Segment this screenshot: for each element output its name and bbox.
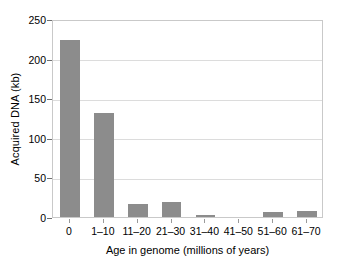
y-tick-mark <box>47 60 52 61</box>
x-tick-mark <box>171 219 172 223</box>
bar <box>94 113 114 217</box>
bar <box>297 211 317 217</box>
bars-group <box>53 21 322 217</box>
y-tick-label: 150 <box>24 94 46 104</box>
y-tick-mark <box>47 218 52 219</box>
x-tick-label: 11–20 <box>120 225 154 237</box>
bar <box>60 40 80 217</box>
x-tick-mark <box>103 219 104 223</box>
x-tick-label: 61–70 <box>289 225 323 237</box>
x-tick-label: 21–30 <box>154 225 188 237</box>
y-tick-mark <box>47 20 52 21</box>
x-tick-mark <box>272 219 273 223</box>
x-tick-label: 41–50 <box>221 225 255 237</box>
bar-chart-figure: Acquired DNA (kb) 050100150200250 01–101… <box>0 0 340 267</box>
y-tick-mark <box>47 178 52 179</box>
y-tick-label: 250 <box>24 15 46 25</box>
y-tick-label: 200 <box>24 55 46 65</box>
x-tick-mark <box>238 219 239 223</box>
x-axis-title: Age in genome (millions of years) <box>52 244 323 257</box>
x-tick-mark <box>306 219 307 223</box>
x-tick-mark <box>137 219 138 223</box>
bar <box>196 215 216 217</box>
x-tick-mark <box>69 219 70 223</box>
bar <box>128 204 148 217</box>
bar <box>162 202 182 217</box>
y-tick-label: 50 <box>24 173 46 183</box>
y-tick-label: 100 <box>24 134 46 144</box>
bar <box>263 212 283 217</box>
y-tick-label: 0 <box>24 213 46 223</box>
x-tick-label: 51–60 <box>255 225 289 237</box>
y-axis-title: Acquired DNA (kb) <box>8 20 22 218</box>
y-tick-mark <box>47 139 52 140</box>
x-tick-label: 0 <box>52 225 86 237</box>
x-tick-mark <box>204 219 205 223</box>
plot-area <box>52 20 323 218</box>
x-tick-label: 31–40 <box>188 225 222 237</box>
y-tick-mark <box>47 99 52 100</box>
x-tick-label: 1–10 <box>86 225 120 237</box>
y-axis-tick-labels: 050100150200250 <box>24 0 46 267</box>
